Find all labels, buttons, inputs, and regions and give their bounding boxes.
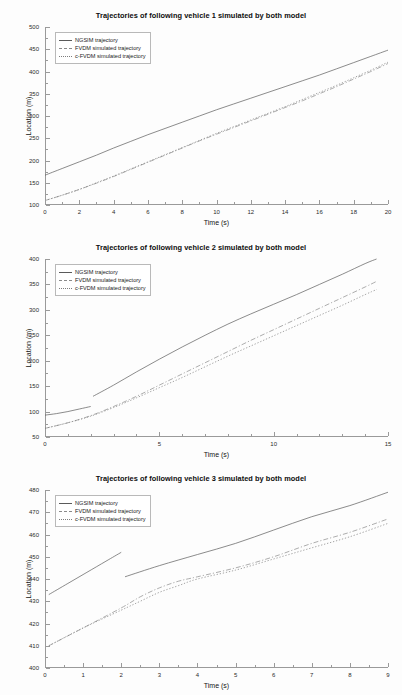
x-tick-label: 4	[196, 672, 199, 678]
x-tick-minor	[62, 202, 63, 204]
x-tick-label: 15	[385, 441, 392, 447]
y-tick	[46, 49, 50, 50]
x-tick-label: 7	[310, 672, 313, 678]
x-tick	[159, 663, 160, 667]
x-tick-minor	[131, 202, 132, 204]
x-tick-label: 0	[43, 441, 46, 447]
legend-item-fvdm: FVDM simulated trajectory	[59, 507, 146, 515]
series-line	[45, 63, 388, 200]
x-tick	[350, 663, 351, 667]
y-tick-minor	[46, 424, 48, 425]
y-tick	[46, 646, 50, 647]
x-tick-minor	[140, 665, 141, 667]
x-tick	[388, 663, 389, 667]
y-tick	[46, 310, 50, 311]
x-tick-minor	[342, 434, 343, 436]
y-tick	[46, 94, 50, 95]
figure-3-legend: NGSIM trajectory FVDM simulated trajecto…	[55, 495, 151, 527]
x-tick-minor	[114, 434, 115, 436]
y-tick-minor	[46, 348, 48, 349]
x-tick-minor	[331, 665, 332, 667]
legend-item-fvdm: FVDM simulated trajectory	[59, 276, 146, 284]
x-tick-label: 5	[158, 441, 161, 447]
x-tick-minor	[64, 665, 65, 667]
y-tick-label: 470	[29, 509, 39, 515]
legend-item-ngsim: NGSIM trajectory	[59, 499, 146, 507]
line-swatch-icon	[59, 511, 72, 512]
x-tick-label: 18	[350, 209, 357, 215]
y-tick-minor	[46, 172, 48, 173]
y-tick	[46, 116, 50, 117]
series-line	[45, 290, 377, 429]
legend-item-ngsim: NGSIM trajectory	[59, 268, 146, 276]
x-tick-minor	[255, 665, 256, 667]
series-line	[49, 519, 388, 646]
y-tick-minor	[46, 568, 48, 569]
line-swatch-icon	[59, 56, 72, 57]
y-tick-label: 150	[29, 383, 39, 389]
y-tick	[46, 624, 50, 625]
y-tick-minor	[46, 194, 48, 195]
legend-item-fvdm: FVDM simulated trajectory	[59, 44, 146, 52]
series-line	[49, 552, 121, 594]
x-tick	[79, 200, 80, 204]
y-tick	[46, 668, 50, 669]
y-tick	[46, 27, 50, 28]
x-tick	[182, 200, 183, 204]
line-swatch-icon	[59, 40, 72, 41]
y-tick-minor	[46, 590, 48, 591]
x-tick-minor	[319, 434, 320, 436]
x-tick-minor	[178, 665, 179, 667]
x-tick	[388, 200, 389, 204]
x-tick-minor	[217, 665, 218, 667]
x-tick-minor	[293, 665, 294, 667]
legend-label: FVDM simulated trajectory	[75, 44, 141, 52]
figure-2-title: Trajectories of following vehicle 2 simu…	[0, 243, 402, 252]
x-tick	[83, 663, 84, 667]
y-tick	[46, 161, 50, 162]
series-line	[45, 281, 377, 428]
y-tick-minor	[46, 546, 48, 547]
y-tick	[46, 284, 50, 285]
x-tick	[45, 200, 46, 204]
x-tick-minor	[268, 202, 269, 204]
y-tick	[46, 490, 50, 491]
y-tick-label: 400	[29, 256, 39, 262]
y-tick-label: 440	[29, 576, 39, 582]
x-tick-minor	[369, 665, 370, 667]
y-tick	[46, 601, 50, 602]
x-tick	[197, 663, 198, 667]
y-tick-minor	[46, 149, 48, 150]
figure-1-x-axis-title: Time (s)	[45, 219, 388, 226]
y-tick	[46, 72, 50, 73]
y-tick-label: 50	[32, 434, 39, 440]
x-tick-minor	[91, 434, 92, 436]
x-tick	[285, 200, 286, 204]
legend-item-cfvdm: c-FVDM simulated trajectory	[59, 284, 146, 292]
y-tick-label: 400	[29, 69, 39, 75]
line-swatch-icon	[59, 272, 72, 273]
figure-vehicle-1: Trajectories of following vehicle 1 simu…	[0, 0, 402, 232]
y-tick-minor	[46, 399, 48, 400]
y-tick-label: 250	[29, 332, 39, 338]
x-tick-label: 9	[386, 672, 389, 678]
line-swatch-icon	[59, 48, 72, 49]
x-tick-label: 16	[316, 209, 323, 215]
y-tick	[46, 205, 50, 206]
x-tick-label: 6	[146, 209, 149, 215]
x-tick-minor	[199, 202, 200, 204]
y-tick-label: 100	[29, 202, 39, 208]
figure-vehicle-3: Trajectories of following vehicle 3 simu…	[0, 463, 402, 695]
figure-3-title: Trajectories of following vehicle 3 simu…	[0, 474, 402, 483]
y-tick-minor	[46, 60, 48, 61]
figure-page: Trajectories of following vehicle 1 simu…	[0, 0, 402, 695]
legend-item-ngsim: NGSIM trajectory	[59, 36, 146, 44]
x-tick-minor	[302, 202, 303, 204]
y-tick-label: 300	[29, 113, 39, 119]
y-tick	[46, 386, 50, 387]
x-tick	[45, 663, 46, 667]
y-tick-label: 500	[29, 24, 39, 30]
figure-1-plot-area: Location (m) Time (s) NGSIM trajectory F…	[45, 27, 388, 205]
y-tick-label: 450	[29, 554, 39, 560]
x-tick	[45, 432, 46, 436]
